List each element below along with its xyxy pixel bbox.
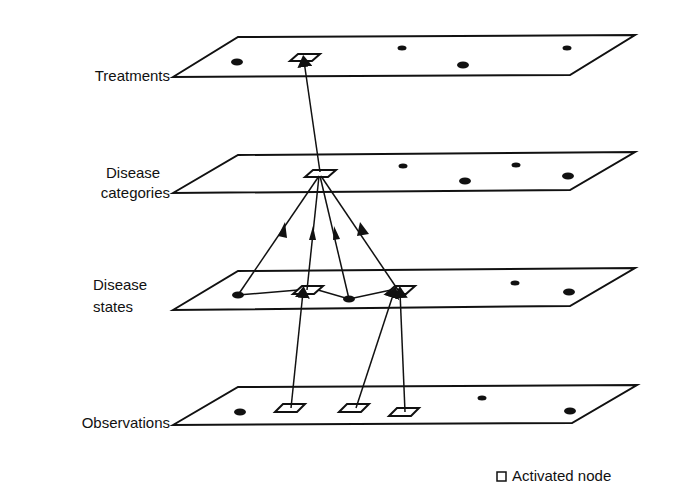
node-treatment — [457, 62, 469, 69]
node-observation — [234, 409, 246, 416]
layer-label-disease-categories-line1: Disease — [106, 164, 160, 181]
node-category — [399, 164, 408, 169]
diagram-canvas: Treatments Disease categories Disease st… — [0, 0, 674, 489]
layer-label-disease-states-line2: states — [93, 298, 133, 315]
activated-node-observation — [339, 404, 369, 412]
arrow-obs-to-state — [400, 292, 405, 412]
activated-node-treatment — [290, 54, 320, 61]
node-observation — [478, 396, 487, 401]
layer-plane-treatments — [173, 35, 635, 77]
arrow-obs-to-state — [356, 292, 394, 408]
node-treatment — [563, 46, 572, 51]
layer-label-disease-categories-line2: categories — [101, 184, 170, 201]
node-category — [512, 163, 521, 168]
layer-label-treatments: Treatments — [95, 67, 170, 84]
node-category — [562, 173, 574, 180]
layer-label-observations: Observations — [82, 414, 170, 431]
legend-activated-node-icon — [497, 472, 506, 481]
node-state — [511, 281, 520, 286]
legend-label: Activated node — [512, 467, 611, 484]
node-category — [459, 178, 471, 185]
activated-node-observation — [389, 408, 419, 416]
arrowhead — [333, 226, 340, 240]
activated-node-observation — [275, 404, 305, 412]
link-state-state — [238, 290, 298, 295]
layer-plane-disease-categories — [173, 152, 635, 193]
node-treatment — [231, 59, 243, 66]
node-state — [563, 289, 575, 296]
node-observation — [564, 408, 576, 415]
layer-label-disease-states-line1: Disease — [93, 276, 147, 293]
link-state-state — [318, 290, 391, 299]
layered-network-diagram: Treatments Disease categories Disease st… — [0, 0, 674, 489]
node-treatment — [398, 46, 407, 51]
legend: Activated node — [497, 467, 611, 484]
arrowhead — [309, 226, 316, 240]
arrowhead — [357, 222, 369, 236]
